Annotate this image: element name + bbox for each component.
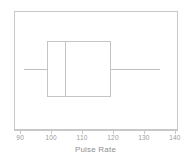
x-tick-label-110: 110 bbox=[71, 134, 93, 142]
box-iqr-rect bbox=[47, 41, 111, 97]
whisker-low-line bbox=[24, 69, 47, 70]
whisker-high-line bbox=[111, 69, 160, 70]
plot-data-layer bbox=[14, 11, 178, 130]
x-tick-label-140: 140 bbox=[164, 134, 186, 142]
x-axis-title: Pulse Rate bbox=[0, 145, 191, 155]
box-plot-figure: 90100110120130140 Pulse Rate bbox=[0, 0, 191, 159]
x-tick-label-130: 130 bbox=[133, 134, 155, 142]
median-line bbox=[65, 41, 66, 97]
x-tick-label-100: 100 bbox=[40, 134, 62, 142]
x-tick-label-90: 90 bbox=[9, 134, 31, 142]
x-tick-label-120: 120 bbox=[102, 134, 124, 142]
x-axis-line bbox=[14, 130, 178, 131]
